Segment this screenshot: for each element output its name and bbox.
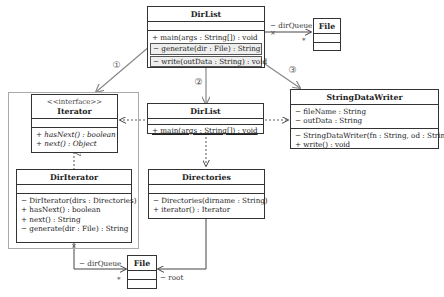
operation-generate: − generate(dir : File) : String: [21, 224, 127, 233]
class-file-top[interactable]: File: [313, 18, 341, 51]
operation-constructor: − DirIterator(dirs : Directories): [21, 196, 127, 205]
class-file-bottom[interactable]: File: [127, 255, 157, 289]
attribute-outdata: − outData : String: [295, 116, 434, 125]
class-iterator-interface[interactable]: <<interface>> Iterator + hasNext() : boo…: [31, 94, 118, 153]
operations-compartment: − StringDataWriter(fn : String, od : Str…: [291, 129, 438, 152]
operation-next: + next() : Object: [36, 139, 113, 148]
operation-main: + main(args : String[]) : void: [152, 33, 260, 42]
attribute-filename: − fileName : String: [295, 107, 434, 116]
operation-generate: − generate(dir : File) : String: [150, 43, 262, 54]
attributes-compartment: [314, 34, 340, 43]
stereotype: <<interface>>: [32, 98, 117, 107]
attributes-compartment: [17, 185, 131, 194]
operation-constructor: − StringDataWriter(fn : String, od : Str…: [295, 131, 434, 140]
multiplicity-top: *: [302, 36, 306, 45]
class-name: DirList: [148, 104, 263, 119]
multiplicity-bottom: *: [117, 275, 121, 284]
class-header: <<interface>> Iterator: [32, 95, 117, 119]
step-marker-3: ③: [287, 65, 298, 76]
association-label-root: − root: [160, 273, 183, 282]
class-name: Directories: [149, 170, 264, 185]
operation-next: + next() : String: [21, 215, 127, 224]
operation-iterator: + iterator() : Iterator: [153, 205, 260, 214]
operation-constructor: − Directories(dirname : String): [153, 196, 260, 205]
class-name: StringDataWriter: [291, 90, 438, 105]
operation-write: + write() : void: [295, 140, 434, 149]
class-name: DirList: [148, 7, 264, 22]
operation-main: + main(args : String[]) : void: [152, 126, 259, 135]
class-diriterator[interactable]: DirIterator − DirIterator(dirs : Directo…: [16, 169, 132, 243]
operations-compartment: + main(args : String[]) : void − generat…: [148, 31, 264, 70]
attributes-compartment: − fileName : String − outData : String: [291, 105, 438, 129]
svg-text:×: ×: [270, 29, 276, 37]
class-name: File: [128, 256, 156, 271]
operations-compartment: + main(args : String[]) : void: [148, 125, 263, 137]
operations-compartment: − Directories(dirname : String) + iterat…: [149, 194, 264, 217]
operation-hasnext: + hasNext() : boolean: [36, 130, 113, 139]
step-marker-1: ①: [111, 60, 122, 71]
class-directories[interactable]: Directories − Directories(dirname : Stri…: [148, 169, 265, 219]
class-dirlist-top[interactable]: DirList + main(args : String[]) : void −…: [147, 6, 265, 68]
operation-hasnext: + hasNext() : boolean: [21, 205, 127, 214]
operations-compartment: − DirIterator(dirs : Directories) + hasN…: [17, 194, 131, 236]
attributes-compartment: [149, 185, 264, 194]
attributes-compartment: [148, 22, 264, 31]
association-label-dirqueue-top: − dirQueue: [270, 21, 312, 30]
attributes-compartment: [32, 119, 117, 128]
class-stringdatawriter[interactable]: StringDataWriter − fileName : String − o…: [290, 89, 439, 149]
class-name: DirIterator: [17, 170, 131, 185]
attributes-compartment: [128, 271, 156, 280]
association-label-dirqueue-bottom: − dirQueue: [79, 259, 121, 268]
class-name: Iterator: [57, 107, 91, 116]
class-dirlist-mid[interactable]: DirList + main(args : String[]) : void: [147, 103, 264, 134]
class-name: File: [314, 19, 340, 34]
step-marker-2: ②: [193, 77, 204, 88]
operation-write: − write(outData : String) : void: [150, 56, 262, 67]
operations-compartment: + hasNext() : boolean + next() : Object: [32, 128, 117, 151]
